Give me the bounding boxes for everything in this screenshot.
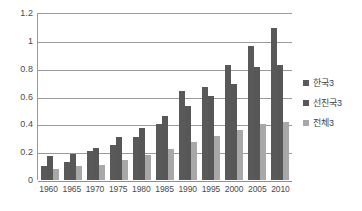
plot-area <box>37 13 292 180</box>
bar-group <box>107 14 130 180</box>
legend-item[interactable]: 전체3 <box>303 113 361 133</box>
bar[interactable] <box>99 165 105 180</box>
x-axis-tick-label: 1965 <box>60 183 83 203</box>
bar-group <box>61 14 84 180</box>
bar-group <box>153 14 176 180</box>
bar-group <box>38 14 61 180</box>
bar-group <box>177 14 200 180</box>
legend-swatch-icon <box>303 120 309 126</box>
x-axis-tick-label: 1970 <box>83 183 106 203</box>
y-axis-tick-label: 0.8 <box>20 64 33 73</box>
y-axis-tick-label: 0 <box>28 176 33 185</box>
legend-item-label: 전체3 <box>313 118 334 128</box>
bar[interactable] <box>145 155 151 180</box>
bar[interactable] <box>191 142 197 180</box>
legend-item[interactable]: 한국3 <box>303 73 361 93</box>
bar[interactable] <box>76 166 82 180</box>
x-axis-tick-label: 2000 <box>223 183 246 203</box>
bar[interactable] <box>237 130 243 180</box>
y-axis-tick-label: 0.4 <box>20 120 33 129</box>
bar[interactable] <box>53 169 59 180</box>
y-axis-tick-label: 0.2 <box>20 148 33 157</box>
x-axis-tick-label: 1995 <box>199 183 222 203</box>
x-axis-tick-label: 1990 <box>176 183 199 203</box>
chart-legend: 한국3선진국3전체3 <box>303 73 361 133</box>
bar-group <box>130 14 153 180</box>
bar-group <box>84 14 107 180</box>
y-axis-tick-label: 1 <box>28 36 33 45</box>
legend-item[interactable]: 선진국3 <box>303 93 361 113</box>
bar[interactable] <box>214 136 220 180</box>
y-axis: 00.20.40.60.811.2 <box>0 0 36 211</box>
x-axis-tick-label: 2010 <box>269 183 292 203</box>
bar-group <box>200 14 223 180</box>
x-axis-tick-label: 1985 <box>153 183 176 203</box>
bar-chart: 00.20.40.60.811.2 1960196519701975198019… <box>0 0 362 211</box>
x-axis-tick-label: 1975 <box>107 183 130 203</box>
legend-item-label: 한국3 <box>313 78 334 88</box>
y-axis-tick-label: 1.2 <box>20 9 33 18</box>
bar[interactable] <box>283 122 289 180</box>
bars-layer <box>38 14 292 180</box>
bar-group <box>223 14 246 180</box>
x-axis-tick-label: 1980 <box>130 183 153 203</box>
bar-group <box>269 14 292 180</box>
x-axis: 1960196519701975198019851990199520002005… <box>37 183 292 203</box>
legend-swatch-icon <box>303 80 309 86</box>
bar[interactable] <box>260 124 266 180</box>
bar[interactable] <box>122 160 128 180</box>
y-axis-tick-label: 0.6 <box>20 92 33 101</box>
legend-item-label: 선진국3 <box>313 98 342 108</box>
x-axis-tick-label: 2005 <box>246 183 269 203</box>
gridline <box>38 181 292 182</box>
x-axis-tick-label: 1960 <box>37 183 60 203</box>
legend-swatch-icon <box>303 100 309 106</box>
bar[interactable] <box>168 149 174 180</box>
bar-group <box>246 14 269 180</box>
